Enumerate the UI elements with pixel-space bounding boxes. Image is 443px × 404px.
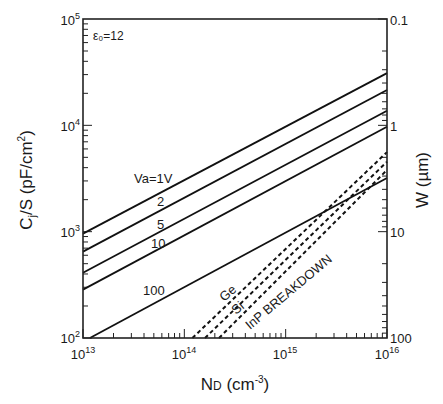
svg-text:103: 103	[61, 223, 80, 240]
svg-text:1015: 1015	[273, 345, 297, 362]
series-line-va-2v	[83, 90, 387, 252]
series-line-va-1v	[83, 73, 387, 234]
svg-text:10: 10	[151, 236, 165, 251]
svg-text:1: 1	[390, 119, 397, 134]
y-tick-labels: 102 103 104 105	[61, 11, 80, 346]
series-line-va-5v	[83, 111, 387, 273]
svg-text:102: 102	[61, 329, 80, 346]
svg-text:Va=1V: Va=1V	[134, 171, 173, 186]
svg-text:0.1: 0.1	[390, 13, 408, 28]
x-tick-labels: 1013 1014 1015 1016	[71, 345, 399, 362]
svg-text:1016: 1016	[375, 345, 399, 362]
svg-text:1014: 1014	[172, 345, 196, 362]
series-lines	[83, 73, 387, 338]
svg-text:Si: Si	[228, 298, 247, 317]
svg-text:105: 105	[61, 11, 80, 28]
svg-text:104: 104	[61, 117, 80, 134]
y2-tick-labels: 100 10 1 0.1	[390, 13, 412, 346]
y2-axis-title: W (µm)	[413, 152, 432, 208]
y-axis-title: Cj/S (pF/cm2)	[16, 130, 38, 230]
series-line-ge-breakdown	[192, 152, 387, 338]
svg-text:InP BREAKDOWN: InP BREAKDOWN	[242, 251, 334, 332]
svg-text:100: 100	[390, 331, 412, 346]
svg-text:1013: 1013	[71, 345, 95, 362]
depletion-capacitance-chart: ε₀=12 1013 1014 1015 1016 102 103 104 10…	[0, 0, 443, 404]
svg-text:5: 5	[157, 217, 164, 232]
permittivity-annotation: ε₀=12	[93, 29, 124, 43]
svg-text:10: 10	[390, 225, 404, 240]
svg-text:100: 100	[143, 283, 165, 298]
series-line-va-10v	[83, 127, 387, 290]
svg-text:2: 2	[157, 194, 164, 209]
x-axis-title: ND (cm-3)	[201, 374, 270, 394]
